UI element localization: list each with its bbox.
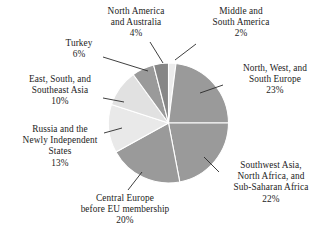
label-line: South Europe xyxy=(224,74,326,85)
label-percent: 10% xyxy=(2,96,118,107)
label-line: South America xyxy=(196,17,286,28)
label-line: Newly Independent xyxy=(2,135,118,146)
label-line: North Africa, and xyxy=(215,171,327,182)
label-line: and Australia xyxy=(88,17,184,28)
label-percent: 22% xyxy=(215,194,327,205)
label-line: Middle and xyxy=(196,6,286,17)
label-percent: 20% xyxy=(50,215,200,226)
slice-label-middle-and-south-america: Middle and South America 2% xyxy=(196,6,286,40)
slice-label-north-america-and-australia: North America and Australia 4% xyxy=(88,6,184,40)
label-line: Turkey xyxy=(48,38,110,49)
label-line: Southwest Asia, xyxy=(215,160,327,171)
leader-line-middle-south-america xyxy=(175,44,196,60)
label-line: Sub-Saharan Africa xyxy=(215,182,327,193)
leader-line-central-europe xyxy=(128,172,142,190)
slice-label-east-south-and-southeast-asia: East, South, and Southeast Asia 10% xyxy=(2,74,118,108)
label-percent: 2% xyxy=(196,28,286,39)
slice-label-southwest-asia-north-africa-sub-saharan-africa: Southwest Asia, North Africa, and Sub-Sa… xyxy=(215,160,327,205)
label-percent: 23% xyxy=(224,85,326,96)
pie-chart: North America and Australia 4% Middle an… xyxy=(0,0,329,240)
pie-slices xyxy=(109,63,229,183)
label-percent: 13% xyxy=(2,158,118,169)
slice-label-russia-and-the-newly-independent-states: Russia and the Newly Independent States … xyxy=(2,124,118,169)
slice-label-turkey: Turkey 6% xyxy=(48,38,110,60)
label-line: North America xyxy=(88,6,184,17)
label-line: East, South, and xyxy=(2,74,118,85)
leader-line-north-america xyxy=(150,42,163,63)
slice-label-central-europe-before-eu-membership: Central Europe before EU membership 20% xyxy=(50,193,200,227)
label-line: Southeast Asia xyxy=(2,85,118,96)
label-line: Russia and the xyxy=(2,124,118,135)
label-line: Central Europe xyxy=(50,193,200,204)
label-line: North, West, and xyxy=(224,63,326,74)
label-line: States xyxy=(2,146,118,157)
label-line: before EU membership xyxy=(50,204,200,215)
slice-label-north-west-and-south-europe: North, West, and South Europe 23% xyxy=(224,63,326,97)
pie-slice-north-west-and-south-europe[interactable] xyxy=(169,63,229,123)
label-percent: 6% xyxy=(48,49,110,60)
